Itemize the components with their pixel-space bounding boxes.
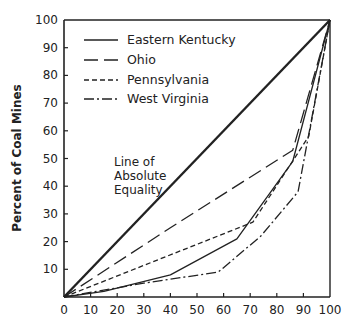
lorenz-chart: 0102030405060708090100 10203040506070809… — [0, 0, 352, 328]
x-tick-label: 50 — [189, 303, 204, 317]
series-line-of-absolute-equality — [64, 20, 330, 297]
equality-annotation: Line of Absolute Equality — [114, 155, 166, 197]
y-axis-label: Percent of Coal Mines — [10, 84, 24, 232]
legend-label: Eastern Kentucky — [127, 32, 236, 47]
x-tick-label: 100 — [319, 303, 342, 317]
x-tick-label: 0 — [60, 303, 68, 317]
annotation-line: Absolute — [114, 169, 166, 183]
y-tick-label: 10 — [43, 262, 58, 276]
legend: Eastern Kentucky Ohio Pennsylvania West … — [84, 32, 236, 106]
y-tick-label: 60 — [43, 124, 58, 138]
y-tick-label: 50 — [43, 152, 58, 166]
legend-label: Ohio — [127, 52, 156, 67]
y-tick-label: 100 — [35, 13, 58, 27]
legend-label: Pennsylvania — [127, 72, 209, 87]
y-axis-ticks: 102030405060708090100 — [35, 13, 68, 276]
legend-label: West Virginia — [127, 91, 209, 106]
y-tick-label: 90 — [43, 41, 58, 55]
x-tick-label: 30 — [136, 303, 151, 317]
annotation-line: Line of — [114, 155, 155, 169]
x-tick-label: 40 — [163, 303, 178, 317]
x-tick-label: 60 — [216, 303, 231, 317]
y-tick-label: 20 — [43, 235, 58, 249]
x-tick-label: 80 — [269, 303, 284, 317]
annotation-line: Equality — [114, 183, 163, 197]
x-tick-label: 90 — [296, 303, 311, 317]
x-tick-label: 20 — [110, 303, 125, 317]
x-tick-label: 70 — [243, 303, 258, 317]
y-tick-label: 30 — [43, 207, 58, 221]
y-tick-label: 40 — [43, 179, 58, 193]
y-tick-label: 80 — [43, 68, 58, 82]
y-tick-label: 70 — [43, 96, 58, 110]
x-tick-label: 10 — [83, 303, 98, 317]
series-lines — [64, 20, 330, 297]
